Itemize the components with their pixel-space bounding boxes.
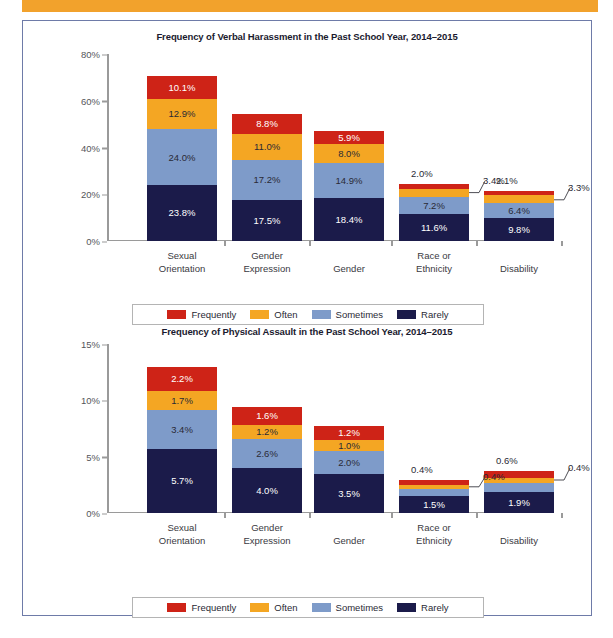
x-axis-tick-mark <box>476 241 478 246</box>
x-axis-tick-mark <box>309 513 311 518</box>
bar-segment-often: 1.7% <box>147 391 217 410</box>
bar-segment-sometimes: 17.2% <box>232 160 302 200</box>
bar-segment-often: 8.0% <box>314 144 384 163</box>
segment-value-label: 1.2% <box>256 427 278 437</box>
bar-segment-sometimes: 6.4% <box>484 203 554 218</box>
stacked-bar[interactable]: 1.5% <box>399 480 469 513</box>
y-axis-tick-label: 5% <box>61 451 107 462</box>
above-bar-value-label: 2.0% <box>411 168 433 179</box>
stacked-bar[interactable]: 23.8%24.0%12.9%10.1% <box>147 76 217 241</box>
above-bar-value-label: 0.4% <box>411 464 433 475</box>
y-axis-tick-label: 0% <box>61 236 107 247</box>
legend-label: Rarely <box>421 602 448 613</box>
bar-segment-frequently: 5.9% <box>314 131 384 145</box>
y-axis-tick-label: 20% <box>61 189 107 200</box>
stacked-bar[interactable]: 5.7%3.4%1.7%2.2% <box>147 367 217 513</box>
legend-label: Sometimes <box>336 309 384 320</box>
x-axis-category-label: Sexual Orientation <box>133 250 231 275</box>
legend-item-often[interactable]: Often <box>250 309 297 320</box>
x-axis-category-label: Disability <box>470 535 568 548</box>
legend-swatch-icon <box>312 310 331 319</box>
bar-segment-frequently <box>484 191 554 196</box>
bar-segment-often <box>399 189 469 197</box>
segment-value-label: 7.2% <box>423 201 445 211</box>
segment-value-label: 23.8% <box>169 208 196 218</box>
stacked-bar[interactable]: 3.5%2.0%1.0%1.2% <box>314 426 384 513</box>
x-axis-category-label: Race or Ethnicity <box>385 522 483 547</box>
bar-segment-sometimes: 14.9% <box>314 163 384 198</box>
bar-segment-sometimes: 2.6% <box>232 439 302 468</box>
bar-segment-frequently: 2.2% <box>147 367 217 392</box>
legend-item-often[interactable]: Often <box>250 602 297 613</box>
legend-label: Often <box>274 309 297 320</box>
y-axis-tick-label: 80% <box>61 49 107 60</box>
x-axis-category-label: Gender <box>300 535 398 548</box>
legend-label: Frequently <box>191 309 236 320</box>
x-axis-tick-mark <box>224 513 226 518</box>
segment-value-label: 1.7% <box>171 396 193 406</box>
segment-value-label: 2.2% <box>171 374 193 384</box>
bar-segment-rarely: 9.8% <box>484 218 554 241</box>
segment-value-label: 17.5% <box>254 216 281 226</box>
legend-swatch-icon <box>312 603 331 612</box>
x-axis-tick-mark <box>309 241 311 246</box>
x-axis-tick-mark <box>561 241 563 246</box>
segment-value-label: 3.4% <box>171 425 193 435</box>
segment-value-label: 14.9% <box>336 176 363 186</box>
bar-segment-rarely: 18.4% <box>314 198 384 241</box>
legend-item-rarely[interactable]: Rarely <box>397 309 448 320</box>
legend-label: Sometimes <box>336 602 384 613</box>
bar-segment-sometimes: 2.0% <box>314 451 384 474</box>
legend-item-sometimes[interactable]: Sometimes <box>312 602 384 613</box>
bar-segment-frequently <box>399 480 469 485</box>
bar-segment-rarely: 11.6% <box>399 214 469 241</box>
y-axis <box>107 54 109 241</box>
bar-segment-rarely: 4.0% <box>232 468 302 513</box>
bar-segment-frequently: 1.2% <box>314 426 384 440</box>
segment-value-label: 18.4% <box>336 215 363 225</box>
bar-segment-often: 11.0% <box>232 134 302 160</box>
segment-value-label: 1.5% <box>423 500 445 510</box>
legend-swatch-icon <box>397 603 416 612</box>
y-axis-tick-label: 15% <box>61 339 107 350</box>
bar-segment-sometimes <box>484 483 554 492</box>
x-axis-tick-mark <box>391 241 393 246</box>
segment-value-label: 24.0% <box>169 153 196 163</box>
chart-legend: FrequentlyOftenSometimesRarely <box>132 304 484 325</box>
x-axis-category-label: Race or Ethnicity <box>385 250 483 275</box>
legend-item-sometimes[interactable]: Sometimes <box>312 309 384 320</box>
bar-segment-often <box>484 195 554 203</box>
bar-segment-often <box>399 485 469 490</box>
bar-segment-frequently: 8.8% <box>232 114 302 135</box>
stacked-bar[interactable]: 9.8%6.4% <box>484 191 554 241</box>
chart-title: Frequency of Verbal Harassment in the Pa… <box>23 31 591 42</box>
segment-value-label: 12.9% <box>169 109 196 119</box>
bar-segment-rarely: 23.8% <box>147 185 217 241</box>
y-axis-tick-label: 60% <box>61 95 107 106</box>
bar-segment-rarely: 1.5% <box>399 496 469 513</box>
stacked-bar[interactable]: 18.4%14.9%8.0%5.9% <box>314 131 384 241</box>
legend-item-frequently[interactable]: Frequently <box>167 602 236 613</box>
segment-value-label: 1.9% <box>508 498 530 508</box>
stacked-bar[interactable]: 17.5%17.2%11.0%8.8% <box>232 114 302 241</box>
y-axis-tick-label: 40% <box>61 142 107 153</box>
legend-swatch-icon <box>250 603 269 612</box>
bar-segment-sometimes: 24.0% <box>147 129 217 185</box>
segment-value-label: 10.1% <box>169 83 196 93</box>
stacked-bar[interactable]: 11.6%7.2% <box>399 184 469 241</box>
stacked-bar[interactable]: 4.0%2.6%1.2%1.6% <box>232 407 302 513</box>
segment-value-label: 6.4% <box>508 206 530 216</box>
bar-segment-frequently: 1.6% <box>232 407 302 425</box>
segment-value-label: 8.8% <box>256 119 278 129</box>
legend-swatch-icon <box>167 310 186 319</box>
chart-legend: FrequentlyOftenSometimesRarely <box>132 597 484 618</box>
segment-value-label: 5.7% <box>171 476 193 486</box>
legend-swatch-icon <box>250 310 269 319</box>
above-bar-value-label: 2.1% <box>496 175 518 186</box>
accent-band <box>22 0 598 12</box>
x-axis-tick-mark <box>224 241 226 246</box>
legend-item-frequently[interactable]: Frequently <box>167 309 236 320</box>
callout-value-label: 3.3% <box>568 182 590 193</box>
bar-segment-frequently <box>399 184 469 189</box>
legend-item-rarely[interactable]: Rarely <box>397 602 448 613</box>
